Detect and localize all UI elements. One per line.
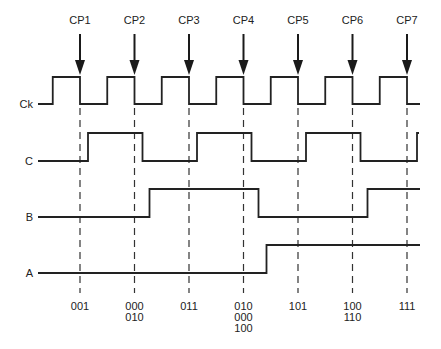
clock-pulse-labels: CP1 CP2 CP3 CP4 CP5 CP6 CP7: [69, 14, 417, 26]
signal-labels: Ck C B A: [20, 98, 34, 279]
cp-label-3: CP3: [178, 14, 199, 26]
state-label-cp3-1: 011: [180, 300, 198, 312]
timing-diagram: CP1 CP2 CP3 CP4 CP5 CP6 CP7 Ck C B A 001…: [0, 0, 441, 349]
waveform-b: [38, 189, 420, 217]
state-label-cp6-2: 110: [344, 311, 362, 323]
waveform-c: [38, 133, 419, 161]
cp-arrow-head-7: [402, 60, 412, 75]
signal-label-c: C: [25, 155, 33, 167]
cp-arrow-head-5: [293, 60, 303, 75]
cp-arrow-head-6: [348, 60, 358, 75]
cp-label-5: CP5: [287, 14, 308, 26]
waveform-a: [38, 245, 420, 273]
signal-label-a: A: [26, 267, 34, 279]
cp-arrow-head-2: [130, 60, 140, 75]
signal-label-b: B: [26, 211, 33, 223]
cp-arrow-head-4: [239, 60, 249, 75]
state-label-cp1-1: 001: [71, 300, 89, 312]
signal-label-ck: Ck: [20, 98, 34, 110]
cp-label-6: CP6: [342, 14, 363, 26]
cp-label-2: CP2: [124, 14, 145, 26]
state-label-cp2-2: 010: [125, 311, 143, 323]
cp-label-7: CP7: [396, 14, 417, 26]
cp-arrow-head-3: [184, 60, 194, 75]
state-label-cp7-1: 111: [399, 300, 416, 312]
waveform-ck: [38, 77, 420, 104]
clock-pulse-guides: [80, 108, 407, 293]
waveforms: [38, 77, 420, 273]
cp-label-1: CP1: [69, 14, 90, 26]
state-label-cp4-3: 100: [234, 322, 252, 334]
clock-pulse-arrows: [75, 34, 412, 75]
cp-label-4: CP4: [233, 14, 254, 26]
state-label-cp5-1: 101: [289, 300, 307, 312]
cp-arrow-head-1: [75, 60, 85, 75]
state-labels: 001000010011010000100101100110111: [71, 300, 416, 334]
